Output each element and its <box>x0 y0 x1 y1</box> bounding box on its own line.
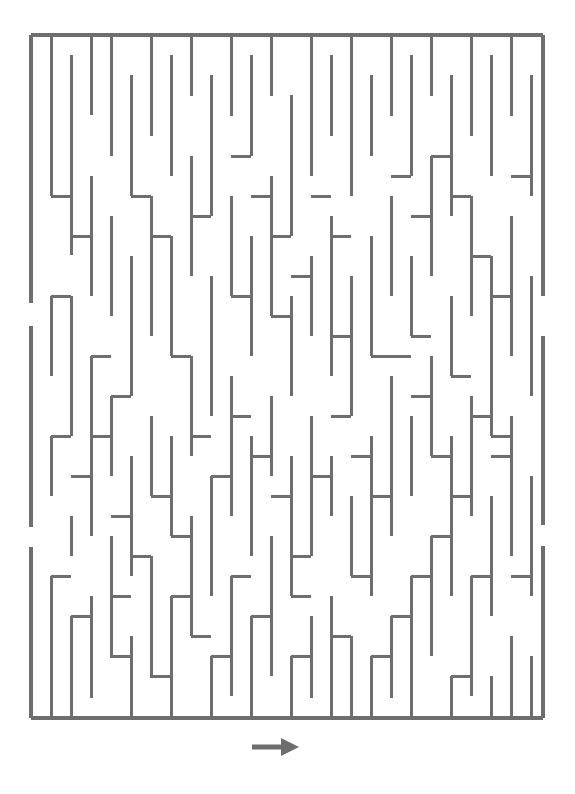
maze-figure <box>0 0 575 794</box>
maze-background <box>0 0 575 794</box>
maze-canvas <box>0 0 575 794</box>
maze-page <box>0 0 575 794</box>
